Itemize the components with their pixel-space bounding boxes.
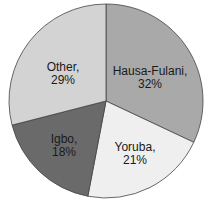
slice-label-igbo: Igbo, 18% bbox=[51, 132, 78, 159]
pie-chart: Hausa-Fulani, 32% Yoruba, 21% Igbo, 18% … bbox=[0, 0, 210, 207]
slice-label-value: 21% bbox=[123, 153, 147, 167]
slice-label-value: 29% bbox=[51, 73, 75, 87]
slice-label-name: Hausa-Fulani, bbox=[113, 64, 188, 78]
slice-label-name: Yoruba, bbox=[115, 140, 156, 154]
slice-label-name: Igbo, bbox=[51, 132, 78, 146]
slice-label-value: 32% bbox=[138, 77, 162, 91]
slice-label-name: Other, bbox=[47, 60, 80, 74]
slice-label-value: 18% bbox=[52, 145, 76, 159]
slice-label-other: Other, 29% bbox=[47, 60, 80, 87]
